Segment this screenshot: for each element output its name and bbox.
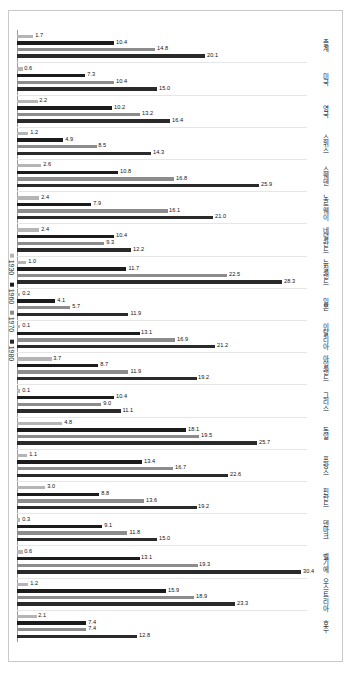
bar-row: 11.9 <box>17 312 307 316</box>
bar-value-label: 14.8 <box>157 47 168 53</box>
bar-row: 23.3 <box>17 602 307 606</box>
bar-value-label: 7.4 <box>88 620 96 626</box>
category-label: 프랑스 <box>310 450 340 481</box>
bar-row: 30.4 <box>17 570 307 574</box>
bar-value-label: 4.8 <box>64 421 72 427</box>
bar-1970 <box>17 306 70 309</box>
bar-group: 노르웨이21.016.17.92.4 <box>17 191 307 223</box>
bar-row: 8.8 <box>17 492 307 496</box>
bar-1980 <box>17 248 131 251</box>
bar-value-label: 7.4 <box>88 627 96 633</box>
bar-value-label: 1.2 <box>30 582 38 588</box>
category-label: 일본 <box>310 289 340 320</box>
bar-value-label: 11.8 <box>129 530 139 536</box>
bar-value-label: 13.1 <box>142 556 153 562</box>
bar-value-label: 2.1 <box>39 614 47 620</box>
bar-value-label: 11.9 <box>130 369 140 375</box>
bar-1930 <box>17 454 27 457</box>
bar-1980 <box>17 635 137 638</box>
bar-value-label: 25.9 <box>261 183 272 189</box>
bar-row: 11.8 <box>17 531 307 535</box>
bar-value-label: 8.7 <box>100 363 108 369</box>
bar-1970 <box>17 48 155 51</box>
bar-value-label: 3.0 <box>47 485 55 491</box>
chart-legend: 1930196019701980 <box>8 254 15 361</box>
bar-1930 <box>17 164 41 167</box>
bar-1930 <box>17 325 20 328</box>
bar-1980 <box>17 506 197 509</box>
bar-1930 <box>17 100 38 103</box>
bar-row: 15.9 <box>17 589 307 593</box>
bar-row: 15.0 <box>17 87 307 91</box>
bar-value-label: 16.7 <box>175 466 186 472</box>
bar-value-label: 11.1 <box>123 408 133 414</box>
bar-1980 <box>17 280 282 283</box>
bar-value-label: 10.8 <box>120 169 131 175</box>
bar-row: 10.4 <box>17 80 307 84</box>
bar-group: 이탈리아21.216.913.10.1 <box>17 320 307 352</box>
bar-1970 <box>17 531 127 534</box>
bar-row: 0.1 <box>17 325 307 329</box>
legend-swatch-1980 <box>10 339 14 343</box>
bar-row: 21.2 <box>17 344 307 348</box>
bar-value-label: 0.3 <box>22 517 30 523</box>
bar-row: 13.4 <box>17 460 307 464</box>
bar-1980 <box>17 152 151 155</box>
bar-value-label: 0.2 <box>22 292 30 298</box>
bar-1960 <box>17 203 91 206</box>
bar-1980 <box>17 602 235 605</box>
legend-swatch-1930 <box>10 254 14 258</box>
bar-value-label: 10.4 <box>116 40 127 46</box>
bar-1980 <box>17 409 121 412</box>
bar-value-label: 9.1 <box>104 524 112 530</box>
bar-1970 <box>17 242 104 245</box>
bar-row: 15.0 <box>17 538 307 542</box>
bar-1980 <box>17 119 170 122</box>
bar-value-label: 10.4 <box>116 395 127 401</box>
category-label: 스위스 <box>310 128 340 159</box>
bar-value-label: 30.4 <box>303 569 314 575</box>
bar-value-label: 13.4 <box>144 459 155 465</box>
bar-value-label: 28.3 <box>284 279 295 285</box>
bar-value-label: 13.1 <box>142 330 153 336</box>
category-label: 아일랜드 <box>310 353 340 384</box>
bar-value-label: 0.6 <box>25 549 33 555</box>
bar-row: 11.9 <box>17 370 307 374</box>
rotated-figure-wrapper: 호주12.87.47.42.1오스트리아23.318.915.91.2벨기에30… <box>0 0 351 673</box>
bar-row: 9.0 <box>17 402 307 406</box>
bar-value-label: 10.2 <box>114 105 125 111</box>
bar-1970 <box>17 81 114 84</box>
bar-1970 <box>17 435 199 438</box>
bar-1960 <box>17 428 186 431</box>
bar-group: 일본11.95.74.10.2 <box>17 288 307 320</box>
legend-swatch-1960 <box>10 282 14 286</box>
bar-row: 2.1 <box>17 615 307 619</box>
bar-1970 <box>17 113 140 116</box>
bar-row: 1.7 <box>17 34 307 38</box>
bar-1960 <box>17 557 140 560</box>
bar-row: 18.1 <box>17 428 307 432</box>
bar-row: 9.3 <box>17 241 307 245</box>
bar-value-label: 23.3 <box>237 601 248 607</box>
bar-row: 13.1 <box>17 331 307 335</box>
bar-row: 2.4 <box>17 228 307 232</box>
bar-row: 25.7 <box>17 441 307 445</box>
bar-value-label: 19.5 <box>201 434 212 440</box>
bar-1970 <box>17 499 144 502</box>
bar-row: 1.0 <box>17 260 307 264</box>
bar-1980 <box>17 313 128 316</box>
legend-label-1980: 1980 <box>8 345 15 361</box>
category-label: 그리스 <box>310 385 340 416</box>
bar-value-label: 9.3 <box>106 240 114 246</box>
bar-1930 <box>17 228 39 231</box>
bar-value-label: 1.1 <box>29 453 37 459</box>
bar-1930 <box>17 389 20 392</box>
bar-row: 13.2 <box>17 112 307 116</box>
bar-1980 <box>17 377 197 380</box>
bar-value-label: 12.2 <box>133 247 144 253</box>
legend-item-1960: 1960 <box>8 282 15 304</box>
bar-value-label: 2.4 <box>41 227 49 233</box>
bar-row: 10.8 <box>17 170 307 174</box>
bar-value-label: 8.8 <box>101 492 109 498</box>
bar-row: 12.2 <box>17 248 307 252</box>
